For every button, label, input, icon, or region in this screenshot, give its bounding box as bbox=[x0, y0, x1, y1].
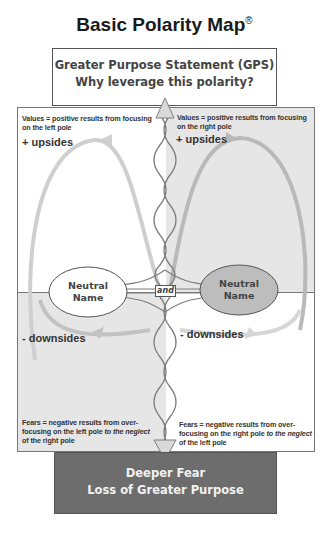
right-pole-line2: Name bbox=[200, 290, 278, 302]
left-pole-line1: Neutral bbox=[49, 280, 127, 292]
right-fears-line2a: focusing on the right pole bbox=[179, 429, 267, 438]
left-pole-line2: Name bbox=[49, 292, 127, 304]
helix-tension-icon bbox=[154, 115, 176, 447]
and-connector: and bbox=[155, 285, 176, 297]
left-loop-arrow bbox=[30, 140, 160, 360]
right-loop-arrowhead-icon bbox=[226, 132, 236, 144]
left-fears-line2: focusing on the left pole to the neglect bbox=[22, 427, 162, 436]
right-values-text: Values = positive results from focusing … bbox=[177, 113, 317, 131]
deeper-fear-subtitle: Loss of Greater Purpose bbox=[55, 483, 276, 497]
right-fears-line1: Fears = negative results from over- bbox=[179, 420, 319, 429]
left-values-line2: on the left pole bbox=[22, 123, 157, 132]
left-downsides-label: - downsides bbox=[22, 332, 86, 344]
left-fears-line2b: to the neglect bbox=[104, 427, 149, 436]
right-fears-line2b: to the neglect bbox=[267, 429, 312, 438]
left-pole-name: Neutral Name bbox=[49, 280, 127, 304]
arrow-up-icon bbox=[156, 98, 174, 118]
right-fears-line3: of the left pole bbox=[179, 438, 319, 447]
right-pole-name: Neutral Name bbox=[200, 278, 278, 302]
right-upsides-label: + upsides bbox=[176, 133, 227, 145]
right-pole-line1: Neutral bbox=[200, 278, 278, 290]
right-values-line1: Values = positive results from focusing bbox=[177, 113, 317, 122]
left-values-line1: Values = positive results from focusing bbox=[22, 114, 157, 123]
right-downsides-label: - downsides bbox=[180, 328, 244, 340]
right-fears-text: Fears = negative results from over- focu… bbox=[179, 420, 319, 447]
deeper-fear-box: Deeper Fear Loss of Greater Purpose bbox=[54, 452, 277, 514]
left-fears-line2a: focusing on the left pole bbox=[22, 427, 104, 436]
left-upsides-label: + upsides bbox=[22, 136, 73, 148]
left-fears-line1: Fears = negative results from over- bbox=[22, 418, 162, 427]
left-values-text: Values = positive results from focusing … bbox=[22, 114, 157, 132]
deeper-fear-title: Deeper Fear bbox=[55, 466, 276, 480]
right-fears-line2: focusing on the right pole to the neglec… bbox=[179, 429, 319, 438]
left-fears-line3: of the right pole bbox=[22, 436, 162, 445]
left-fears-text: Fears = negative results from over- focu… bbox=[22, 418, 162, 445]
right-values-line2: on the right pole bbox=[177, 122, 317, 131]
